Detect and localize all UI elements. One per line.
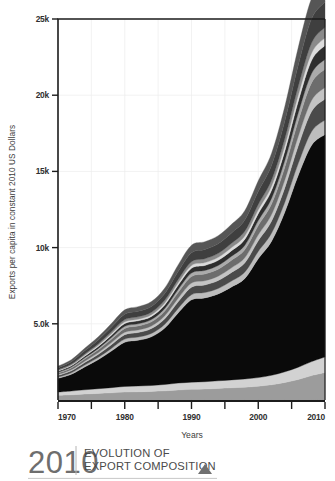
x-tick-label: 1980 (116, 412, 134, 422)
x-tick-label: 2000 (249, 412, 267, 422)
y-tick-label: 15k (36, 166, 50, 176)
footer-title-line2: EXPORT COMPOSITION (84, 460, 216, 472)
y-tick-label: 5.0k (33, 319, 49, 329)
y-tick-label: 10k (36, 243, 50, 253)
y-tick-label: 20k (36, 90, 50, 100)
x-axis-title: Years (181, 430, 203, 440)
x-tick-label: 1990 (183, 412, 201, 422)
y-tick-label: 25k (36, 14, 50, 24)
x-tick-label: 2010 (307, 412, 325, 422)
y-axis-title: Exports per capita in constant 2010 US D… (8, 125, 17, 299)
x-tick-label: 1970 (58, 412, 76, 422)
export-composition-figure: 5.0k10k15k20k25k19701980199020002010 Exp… (0, 0, 335, 481)
footer-title-line1: EVOLUTION OF (84, 447, 170, 459)
